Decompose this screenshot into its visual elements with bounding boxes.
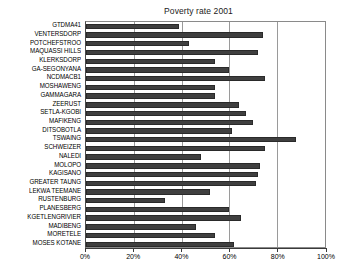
plot-area [85, 21, 326, 248]
bar [86, 128, 232, 133]
category-label: KGETLENGRIVIER [27, 214, 81, 221]
bar [86, 59, 215, 64]
bar [86, 24, 179, 29]
bar [86, 224, 196, 229]
bar [86, 207, 229, 212]
bar [86, 50, 258, 55]
category-label-row: MOSES KOTANE [0, 239, 83, 248]
category-label: GTDMA41 [52, 22, 81, 29]
bar-row [86, 144, 325, 153]
bar-row [86, 153, 325, 162]
bar [86, 120, 253, 125]
category-label: NALEDI [59, 153, 81, 160]
category-label-row: GTDMA41 [0, 21, 83, 30]
category-label-row: SETLA-KGOBI [0, 108, 83, 117]
category-label: MOSES KOTANE [33, 240, 81, 247]
bar-row [86, 92, 325, 101]
bar [86, 76, 265, 81]
bar-row [86, 162, 325, 171]
category-label: MAQUASSI HILLS [30, 48, 81, 55]
category-label: KAGISANO [49, 170, 81, 177]
category-label: RUSTENBURG [38, 196, 81, 203]
bar-row [86, 83, 325, 92]
x-axis-tick-label: 60% [223, 253, 237, 260]
bar-row [86, 231, 325, 240]
category-label-row: GREATER TAUNG [0, 178, 83, 187]
bar [86, 189, 210, 194]
bar [86, 154, 201, 159]
category-label-row: MOSHAWENG [0, 82, 83, 91]
x-axis-tick [229, 249, 230, 252]
category-label-row: KLERKSDORP [0, 56, 83, 65]
bar-row [86, 48, 325, 57]
bar-row [86, 205, 325, 214]
x-axis-tick [181, 249, 182, 252]
category-label: VENTERSDORP [34, 31, 81, 38]
x-axis-tick [133, 249, 134, 252]
x-axis-tick [85, 249, 86, 252]
bar [86, 215, 241, 220]
category-label-row: GAMMAGARA [0, 91, 83, 100]
bar-row [86, 196, 325, 205]
bar [86, 41, 189, 46]
bar [86, 233, 215, 238]
category-label: MOSHAWENG [40, 83, 81, 90]
bar [86, 111, 246, 116]
bar-row [86, 100, 325, 109]
bar-row [86, 39, 325, 48]
poverty-rate-chart: Poverty rate 2001 GTDMA41VENTERSDORPPOTC… [0, 0, 349, 279]
x-axis-tick-label: 100% [317, 253, 335, 260]
x-axis-tick [326, 249, 327, 252]
category-label-row: KAGISANO [0, 169, 83, 178]
x-axis: 0%20%40%60%80%100% [85, 249, 326, 269]
bar [86, 137, 296, 142]
bar-row [86, 214, 325, 223]
category-label: MADIBENG [48, 222, 81, 229]
bar-row [86, 57, 325, 66]
bar [86, 67, 229, 72]
bar [86, 102, 239, 107]
category-label-row: KGETLENGRIVIER [0, 213, 83, 222]
bar-row [86, 223, 325, 232]
bar-row [86, 127, 325, 136]
category-label: SCHWEIZER [44, 144, 81, 151]
category-label-row: MORETELE [0, 230, 83, 239]
category-label-row: SCHWEIZER [0, 143, 83, 152]
category-label: SETLA-KGOBI [40, 109, 81, 116]
category-label: TSWAING [53, 135, 81, 142]
category-label-row: MAFIKENG [0, 117, 83, 126]
bar-row [86, 22, 325, 31]
x-axis-tick-label: 20% [126, 253, 140, 260]
category-label: MAFIKENG [49, 118, 81, 125]
category-label: GAMMAGARA [41, 92, 81, 99]
category-label-row: NALEDI [0, 152, 83, 161]
bar-rows [86, 22, 325, 247]
category-label: NCDMACB1 [47, 74, 81, 81]
category-label-row: VENTERSDORP [0, 30, 83, 39]
category-label: PLANESBERG [40, 205, 81, 212]
category-label: DITSOBOTLA [42, 126, 81, 133]
category-label: MOLOPO [54, 161, 81, 168]
bar [86, 32, 263, 37]
chart-title: Poverty rate 2001 [0, 6, 349, 16]
bar [86, 198, 165, 203]
x-axis-tick [277, 249, 278, 252]
bar [86, 146, 265, 151]
category-label: MORETELE [47, 231, 81, 238]
bar [86, 172, 258, 177]
category-label: ZEERUST [52, 100, 81, 107]
category-label: LEKWA TEEMANE [29, 187, 81, 194]
bar [86, 181, 256, 186]
bar-row [86, 179, 325, 188]
bar [86, 93, 215, 98]
bar-row [86, 66, 325, 75]
category-label-row: MAQUASSI HILLS [0, 47, 83, 56]
category-label-row: PLANESBERG [0, 204, 83, 213]
category-label: KLERKSDORP [39, 57, 81, 64]
x-axis-tick-label: 40% [174, 253, 188, 260]
bar-row [86, 135, 325, 144]
bar-row [86, 118, 325, 127]
category-label: GREATER TAUNG [29, 179, 81, 186]
category-axis-labels: GTDMA41VENTERSDORPPOTCHEFSTROOMAQUASSI H… [0, 21, 83, 248]
bar [86, 242, 234, 247]
